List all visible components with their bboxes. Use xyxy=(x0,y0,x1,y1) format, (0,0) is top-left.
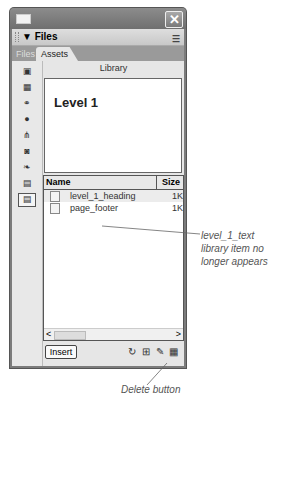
callout-deleted-item: level_1_text library item no longer appe… xyxy=(201,229,268,268)
callout-delete-button: Delete button xyxy=(121,383,181,396)
